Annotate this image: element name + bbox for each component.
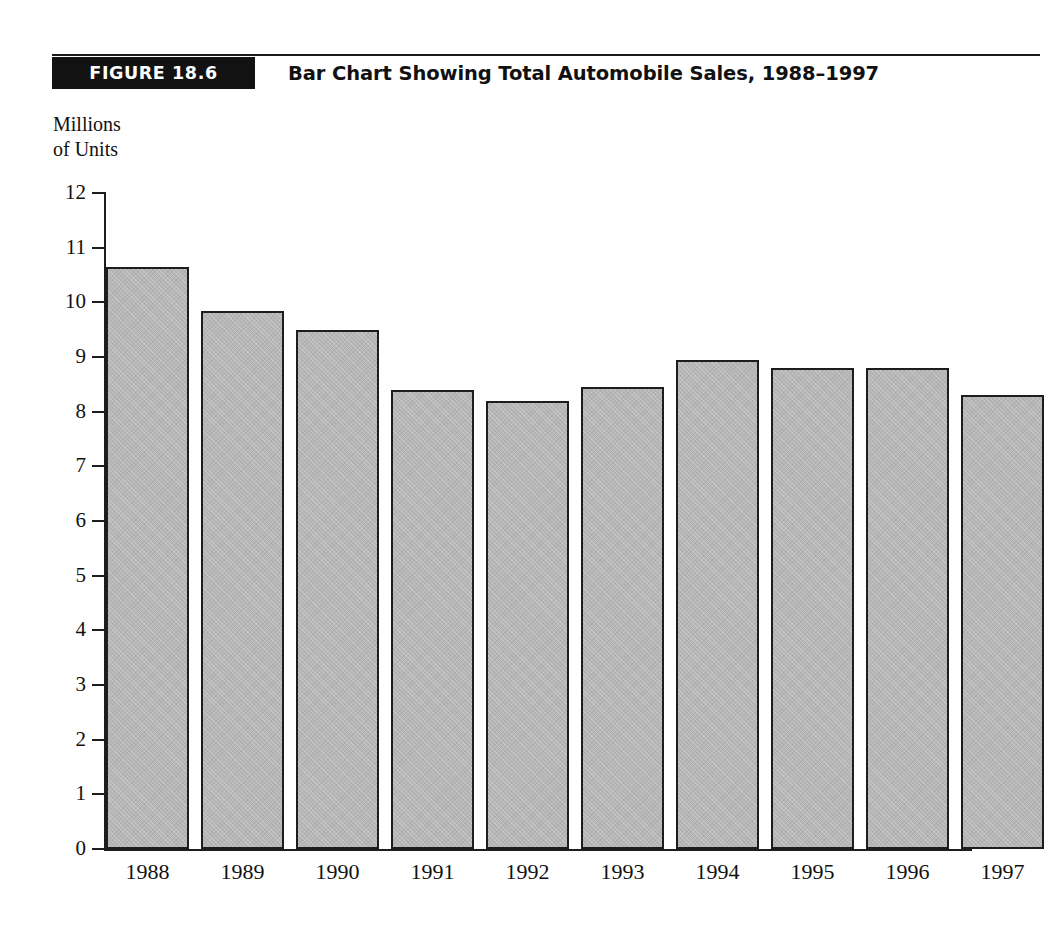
y-axis-tick-label: 2 — [42, 729, 86, 750]
y-axis-tick — [92, 356, 105, 358]
x-axis-label-1995: 1995 — [771, 857, 854, 887]
y-axis-tick-label-text: 10 — [48, 291, 86, 312]
x-axis-label-1988: 1988 — [106, 857, 189, 887]
y-axis-tick-label-text: 6 — [48, 510, 86, 531]
y-axis-tick-label: 0 — [42, 838, 86, 859]
y-axis-tick-label: 1 — [42, 783, 86, 804]
y-axis-tick — [92, 411, 105, 413]
x-axis-label-1989: 1989 — [201, 857, 284, 887]
x-axis-label-1991: 1991 — [391, 857, 474, 887]
y-axis-tick — [92, 520, 105, 522]
y-axis-tick-label: 5 — [42, 565, 86, 586]
y-axis-tick — [92, 575, 105, 577]
y-axis-tick-label-text: 5 — [48, 565, 86, 586]
y-axis-tick-label: 7 — [42, 455, 86, 476]
y-axis-tick — [92, 247, 105, 249]
y-axis-tick-label: 3 — [42, 674, 86, 695]
bar-1997 — [961, 395, 1044, 849]
y-axis-tick — [92, 793, 105, 795]
bar-1990 — [296, 330, 379, 849]
bar-1991 — [391, 390, 474, 849]
y-axis-tick — [92, 848, 105, 850]
x-axis-label-1994: 1994 — [676, 857, 759, 887]
y-axis-tick — [92, 629, 105, 631]
bar-1994 — [676, 360, 759, 849]
x-axis-line — [104, 849, 972, 851]
y-axis-tick — [92, 192, 105, 194]
y-axis-tick-label-text: 9 — [48, 346, 86, 367]
figure-container: FIGURE 18.6 Bar Chart Showing Total Auto… — [0, 0, 1053, 926]
y-axis-tick-label-text: 12 — [48, 182, 86, 203]
y-axis-tick-label: 8 — [42, 401, 86, 422]
bar-1989 — [201, 311, 284, 849]
bar-1992 — [486, 401, 569, 849]
y-axis-tick-label: 10 — [42, 291, 86, 312]
x-axis-label-1997: 1997 — [961, 857, 1044, 887]
bar-1995 — [771, 368, 854, 849]
bar-1996 — [866, 368, 949, 849]
y-axis-tick-label: 4 — [42, 619, 86, 640]
bar-chart-plot: 1211109876543210 19881989199019911992199… — [0, 0, 1053, 926]
x-axis-label-1996: 1996 — [866, 857, 949, 887]
x-axis-label-1992: 1992 — [486, 857, 569, 887]
y-axis-tick-label: 12 — [42, 182, 86, 203]
bar-1993 — [581, 387, 664, 849]
y-axis-tick-label-text: 8 — [48, 401, 86, 422]
y-axis-tick-label-text: 7 — [48, 455, 86, 476]
y-axis-tick — [92, 301, 105, 303]
y-axis-tick-label: 6 — [42, 510, 86, 531]
y-axis-tick-label-text: 4 — [48, 619, 86, 640]
y-axis-tick — [92, 739, 105, 741]
x-axis-label-1993: 1993 — [581, 857, 664, 887]
bar-1988 — [106, 267, 189, 849]
y-axis-tick-label-text: 3 — [48, 674, 86, 695]
y-axis-tick-label-text: 2 — [48, 729, 86, 750]
y-axis-tick-label-text: 11 — [48, 237, 86, 258]
y-axis-tick-label-text: 1 — [48, 783, 86, 804]
y-axis-tick-label: 9 — [42, 346, 86, 367]
y-axis-tick-label-text: 0 — [48, 838, 86, 859]
y-axis-tick — [92, 684, 105, 686]
x-axis-label-1990: 1990 — [296, 857, 379, 887]
y-axis-tick — [92, 465, 105, 467]
y-axis-tick-label: 11 — [42, 237, 86, 258]
